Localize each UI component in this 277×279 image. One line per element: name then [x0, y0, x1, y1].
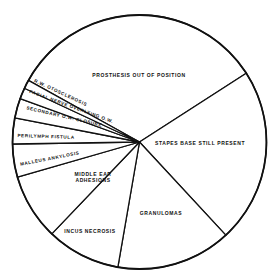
slice-label: STAPES BASE STILL PRESENT: [155, 140, 245, 146]
slice-label: PROSTHESIS OUT OF POSITION: [92, 72, 185, 78]
slice-label: GRANULOMAS: [140, 210, 182, 216]
slice-label: MIDDLE EARADHESIONS: [74, 171, 111, 183]
slice-label: INCUS NECROSIS: [64, 228, 116, 234]
pie-chart: PROSTHESIS OUT OF POSITIONSTAPES BASE ST…: [0, 0, 277, 279]
